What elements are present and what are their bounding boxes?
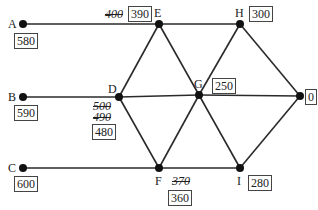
value-box-e: 390 [128, 6, 152, 22]
node-label-g: G [194, 78, 203, 90]
value-box-f: 360 [168, 190, 192, 206]
node-label-i: I [237, 175, 241, 187]
node-b [19, 93, 27, 101]
edge-j-i [240, 96, 300, 168]
node-a [19, 20, 27, 28]
node-c [19, 164, 27, 172]
node-i [236, 164, 244, 172]
edge-d-f [119, 97, 159, 168]
value-box-h: 300 [249, 6, 273, 22]
node-j [296, 92, 304, 100]
node-label-b: B [8, 91, 16, 103]
node-label-f: F [155, 175, 162, 187]
struck-value-d-2: 490 [93, 111, 111, 123]
edge-h-j [240, 24, 300, 96]
node-label-e: E [154, 7, 161, 19]
edge-g-f [159, 95, 199, 168]
edge-d-g [119, 95, 199, 97]
value-box-j: 0 [305, 89, 317, 105]
edge-g-j [199, 95, 300, 96]
value-box-c: 600 [14, 176, 38, 192]
edge-g-i [199, 95, 240, 168]
struck-value-e-1: 400 [105, 8, 123, 20]
node-label-d: D [108, 83, 117, 95]
struck-value-f-1: 370 [172, 175, 190, 187]
node-g [195, 91, 203, 99]
value-box-g: 250 [212, 78, 236, 94]
value-box-i: 280 [248, 175, 272, 191]
node-label-a: A [8, 18, 17, 30]
node-label-c: C [8, 162, 16, 174]
value-box-b: 590 [14, 105, 38, 121]
node-e [155, 20, 163, 28]
edges [23, 24, 300, 168]
node-f [155, 164, 163, 172]
value-box-d: 480 [92, 124, 116, 140]
edge-e-g [159, 24, 199, 95]
node-h [236, 20, 244, 28]
value-box-a: 580 [14, 33, 38, 49]
node-label-h: H [235, 7, 244, 19]
edge-e-d [119, 24, 159, 97]
